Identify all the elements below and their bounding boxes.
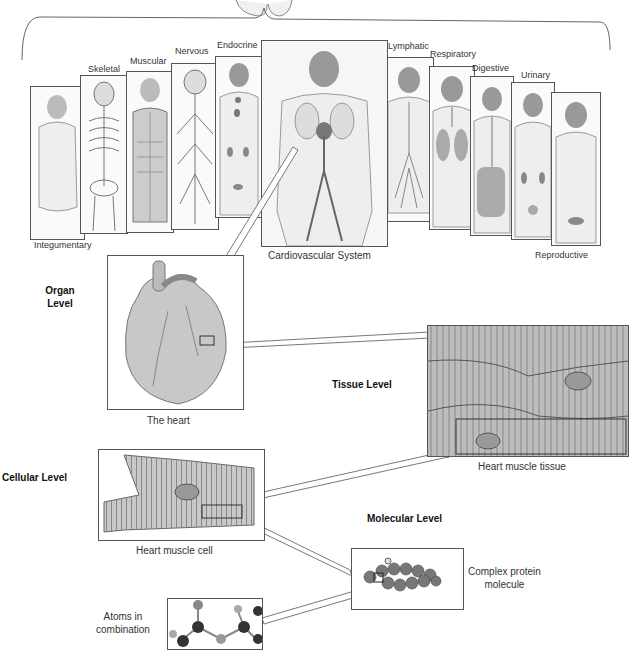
atoms-caption: Atoms in combination — [96, 610, 150, 636]
panel-skeletal — [80, 75, 128, 234]
label-urinary: Urinary — [521, 70, 550, 80]
panel-respiratory — [429, 66, 475, 230]
panel-lymphatic — [384, 57, 434, 222]
label-cardiovascular: Cardiovascular System — [268, 250, 371, 261]
panel-urinary — [511, 82, 555, 240]
cell-caption: Heart muscle cell — [136, 545, 213, 556]
label-endocrine: Endocrine — [217, 40, 258, 50]
label-skeletal: Skeletal — [88, 64, 120, 74]
atoms-panel — [167, 598, 263, 650]
heart-panel — [107, 255, 244, 410]
tissue-level-label: Tissue Level — [332, 378, 392, 391]
molecule-caption: Complex protein molecule — [468, 565, 541, 591]
tissue-caption: Heart muscle tissue — [478, 461, 566, 472]
heart-caption: The heart — [147, 415, 190, 426]
molecular-level-label: Molecular Level — [367, 512, 442, 525]
panel-cardiovascular — [261, 40, 388, 247]
label-lymphatic: Lymphatic — [388, 41, 429, 51]
label-muscular: Muscular — [130, 56, 167, 66]
label-reproductive: Reproductive — [535, 250, 588, 260]
panel-digestive — [470, 76, 514, 236]
cell-panel — [98, 449, 265, 541]
label-nervous: Nervous — [175, 46, 209, 56]
panel-endocrine — [215, 56, 263, 218]
label-integumentary: Integumentary — [34, 240, 92, 250]
cellular-level-label: Cellular Level — [2, 471, 67, 484]
panel-nervous — [171, 63, 219, 230]
label-respiratory: Respiratory — [430, 49, 476, 59]
panel-reproductive — [551, 92, 601, 246]
molecule-panel — [351, 548, 464, 610]
tissue-panel — [427, 325, 629, 457]
organ-level-label: Organ Level — [42, 284, 78, 310]
label-digestive: Digestive — [472, 63, 509, 73]
panel-muscular — [126, 71, 174, 233]
panel-integumentary — [30, 86, 85, 240]
